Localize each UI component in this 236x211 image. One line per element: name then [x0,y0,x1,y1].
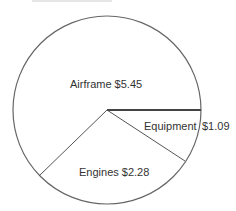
slice-label-engines: Engines $2.28 [79,166,149,178]
title-fragment [32,0,112,2]
slice-label-airframe: Airframe $5.45 [70,78,142,90]
slice-value-equipment: $1.09 [202,120,230,132]
pie-chart: Airframe $5.45 Engines $2.28 Equipment $… [0,0,236,211]
slice-label-equipment: Equipment [144,120,197,132]
